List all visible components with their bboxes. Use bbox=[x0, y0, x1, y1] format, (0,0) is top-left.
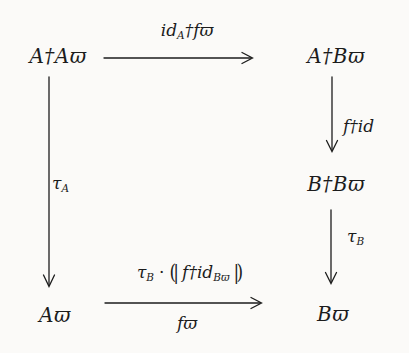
node-bottom-left: Aϖ bbox=[39, 305, 71, 325]
arrow-right-upper bbox=[327, 77, 338, 152]
label-right-lower-arrow: τB bbox=[347, 228, 364, 245]
label-right-lower-sub: B bbox=[356, 235, 364, 247]
label-top-sub: A bbox=[177, 28, 185, 40]
label-right-lower-main: τ bbox=[347, 226, 356, 246]
label-top-main: id bbox=[161, 20, 177, 40]
node-top-right: A†Bϖ bbox=[307, 46, 364, 66]
arrow-top bbox=[104, 53, 253, 64]
composition-dot: · bbox=[159, 262, 164, 282]
label-bottom-body: f†id bbox=[182, 262, 213, 282]
arrow-bottom bbox=[105, 298, 262, 309]
label-left-main: τ bbox=[52, 173, 61, 193]
node-top-left: A†Aϖ bbox=[29, 46, 86, 66]
label-left-sub: A bbox=[61, 182, 69, 194]
label-top-arrow: idA†fϖ bbox=[161, 22, 214, 39]
banana-bracket-left: (| bbox=[170, 261, 177, 282]
node-mid-right: B†Bϖ bbox=[307, 174, 365, 194]
label-bottom-arrow-below: fϖ bbox=[177, 315, 197, 332]
label-top-rest: †fϖ bbox=[185, 20, 214, 40]
banana-bracket-right: |) bbox=[234, 261, 243, 282]
arrow-right-lower bbox=[326, 210, 337, 284]
label-bottom-tau-sub: B bbox=[146, 270, 154, 282]
label-right-upper-arrow: f†id bbox=[343, 118, 374, 135]
commutative-diagram: A†Aϖ A†Bϖ B†Bϖ Aϖ Bϖ idA†fϖ τA f†id τB τ… bbox=[0, 0, 409, 353]
label-bottom-body-sub: Bϖ bbox=[213, 270, 229, 282]
node-bottom-right: Bϖ bbox=[317, 304, 349, 324]
label-left-arrow: τA bbox=[52, 175, 69, 192]
label-bottom-arrow-above: τB·(|f†idBϖ|) bbox=[137, 264, 243, 281]
label-bottom-tau: τ bbox=[137, 262, 146, 282]
